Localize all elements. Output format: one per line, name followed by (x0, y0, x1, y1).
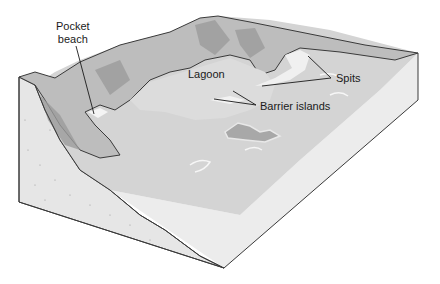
label-spits: Spits (336, 72, 360, 85)
label-barrier-islands: Barrier islands (260, 100, 330, 113)
label-pocket-beach: Pocket beach (56, 20, 90, 46)
label-pocket-beach-line2: beach (56, 33, 90, 46)
label-lagoon: Lagoon (188, 68, 225, 81)
label-pocket-beach-line1: Pocket (56, 20, 90, 33)
